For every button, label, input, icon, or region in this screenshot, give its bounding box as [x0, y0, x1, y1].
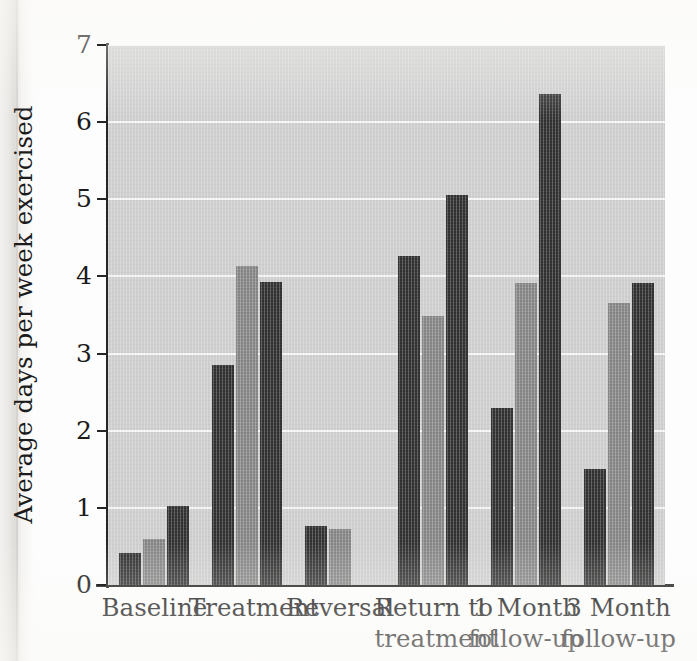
y-axis-tick-label: 5 [58, 186, 92, 211]
bar [608, 303, 630, 585]
gridline [108, 198, 665, 200]
y-axis-tick-label: 1 [58, 495, 92, 520]
gridline [108, 121, 665, 123]
gridline [108, 353, 665, 355]
y-axis-tick [97, 198, 106, 200]
bar [632, 283, 654, 585]
y-axis-title: Average days per week exercised [9, 55, 38, 575]
x-axis-category-label: 3 Monthfollow-up [560, 592, 677, 654]
y-axis-tick-label: 0 [58, 572, 92, 597]
y-axis-tick [97, 353, 106, 355]
y-axis-tick-labels: 76543210 [52, 0, 92, 661]
bar [539, 94, 561, 585]
plot-area [108, 45, 665, 585]
y-axis-tick [97, 584, 106, 586]
bar [398, 256, 420, 585]
y-axis-tick [97, 121, 106, 123]
gridline [108, 45, 665, 46]
bar [236, 266, 258, 585]
bar [305, 526, 327, 585]
bar [446, 195, 468, 585]
y-axis-tick-label: 3 [58, 341, 92, 366]
y-axis-tick-label: 2 [58, 418, 92, 443]
bar [515, 283, 537, 585]
bar [167, 506, 189, 585]
bar [422, 316, 444, 585]
gridline [108, 507, 665, 509]
y-axis-tick-label: 4 [58, 263, 92, 288]
bar [584, 469, 606, 585]
gridline [108, 275, 665, 277]
bar [329, 529, 351, 585]
bar [260, 282, 282, 585]
y-axis-tick [97, 430, 106, 432]
y-axis-tick [97, 507, 106, 509]
bar [143, 539, 165, 585]
gridline [108, 430, 665, 432]
y-axis-tick [97, 275, 106, 277]
bar [119, 553, 141, 585]
bar [212, 365, 234, 585]
x-axis-category-labels: BaselineTreatmentReversalReturn totreatm… [108, 592, 665, 658]
figure-page: Average days per week exercised 76543210… [0, 0, 697, 661]
y-axis-tick [97, 44, 106, 46]
y-axis-tick-label: 7 [58, 32, 92, 57]
bar [491, 408, 513, 585]
y-axis-tick-label: 6 [58, 109, 92, 134]
